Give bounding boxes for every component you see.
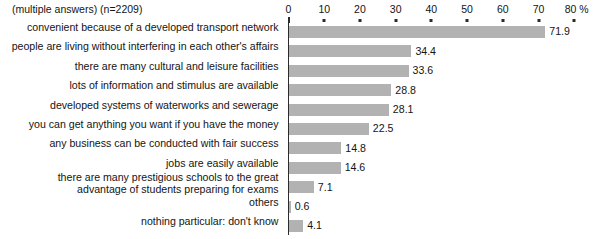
category-label: jobs are easily available [4, 158, 284, 170]
category-label: you can get anything you want if you hav… [4, 119, 284, 131]
bar [289, 162, 341, 174]
bar-row: there are many prestigious schools to th… [0, 177, 612, 196]
x-axis-tick-label: 20 [354, 2, 366, 16]
bar [289, 123, 369, 135]
category-label: nothing particular: don't know [4, 216, 284, 228]
bar-value-label: 0.6 [291, 199, 310, 213]
bar-value-label: 4.1 [303, 218, 322, 232]
x-axis-labels: 01020304050607080 % [0, 2, 612, 18]
bar [289, 181, 314, 193]
bar [289, 26, 546, 38]
bar-row: people are living without interfering in… [0, 41, 612, 60]
x-axis-tick-label: 50 [461, 2, 473, 16]
x-axis-tick-label: 30 [390, 2, 402, 16]
horizontal-bar-chart: (multiple answers) (n=2209) 010203040506… [0, 0, 612, 239]
category-label: lots of information and stimulus are ava… [4, 80, 284, 92]
x-axis-tick-label: 70 [533, 2, 545, 16]
x-axis-tick-label: 0 [286, 2, 292, 16]
category-label: there are many cultural and leisure faci… [4, 61, 284, 73]
category-label: people are living without interfering in… [4, 41, 284, 53]
bar-value-label: 14.8 [341, 141, 366, 155]
bar-value-label: 33.6 [409, 63, 434, 77]
category-label: there are many prestigious schools to th… [4, 172, 284, 195]
category-label: convenient because of a developed transp… [4, 22, 284, 34]
bar [289, 65, 409, 77]
bar-value-label: 71.9 [545, 24, 570, 38]
bar-row: there are many cultural and leisure faci… [0, 61, 612, 80]
bar [289, 45, 412, 57]
bar-value-label: 7.1 [314, 180, 333, 194]
bar-value-label: 34.4 [411, 44, 436, 58]
x-axis-tick-label: 60 [497, 2, 509, 16]
bar-row: developed systems of waterworks and sewe… [0, 100, 612, 119]
bar-value-label: 28.1 [389, 102, 414, 116]
bar [289, 84, 392, 96]
x-axis-tick-label: 40 [426, 2, 438, 16]
bar-row: nothing particular: don't know4.1 [0, 216, 612, 235]
bar-row: convenient because of a developed transp… [0, 22, 612, 41]
bar-row: others0.6 [0, 197, 612, 216]
category-label: others [4, 197, 284, 209]
bar [289, 220, 304, 232]
bar-value-label: 22.5 [369, 121, 394, 135]
bar-row: lots of information and stimulus are ava… [0, 80, 612, 99]
bar-row: you can get anything you want if you hav… [0, 119, 612, 138]
x-axis-tick-label: 10 [318, 2, 330, 16]
bar-rows: convenient because of a developed transp… [0, 22, 612, 235]
bar-value-label: 14.6 [341, 160, 366, 174]
bar-row: any business can be conducted with fair … [0, 138, 612, 157]
bar [289, 104, 389, 116]
bar [289, 142, 342, 154]
category-label: any business can be conducted with fair … [4, 138, 284, 150]
bar-value-label: 28.8 [391, 83, 416, 97]
x-axis-tick-label: 80 % [565, 2, 589, 16]
category-label: developed systems of waterworks and sewe… [4, 100, 284, 112]
